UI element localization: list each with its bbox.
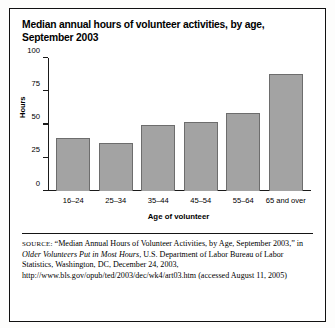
y-axis-line bbox=[48, 58, 49, 191]
bar-slot: 65 and over bbox=[265, 58, 308, 191]
x-axis-tick-label: 16–24 bbox=[63, 196, 84, 205]
y-axis-tick bbox=[43, 123, 48, 124]
y-axis-tick-label: 25 bbox=[31, 145, 40, 154]
figure-page: Median annual hours of volunteer activit… bbox=[0, 0, 335, 328]
x-axis-tick-label: 45–54 bbox=[190, 196, 211, 205]
x-axis-title: Age of volunteer bbox=[48, 212, 309, 221]
y-axis-tick bbox=[43, 90, 48, 91]
figure-frame: Median annual hours of volunteer activit… bbox=[9, 8, 326, 322]
bar bbox=[99, 143, 133, 191]
source-text-part-1: “Median Annual Hours of Volunteer Activi… bbox=[53, 239, 304, 248]
bar-slot: 55–64 bbox=[222, 58, 265, 191]
y-axis-tick-label: 100 bbox=[27, 45, 40, 54]
x-axis-tick-label: 65 and over bbox=[266, 196, 306, 205]
bar-slot: 45–54 bbox=[180, 58, 223, 191]
source-note: SOURCE: “Median Annual Hours of Voluntee… bbox=[10, 234, 325, 287]
figure-title-line-1: Median annual hours of volunteer activit… bbox=[22, 19, 265, 30]
plot-area: 16–2425–3435–4445–5455–6465 and over 025… bbox=[48, 58, 309, 191]
y-axis-tick bbox=[43, 190, 48, 191]
x-axis-tick-label: 55–64 bbox=[233, 196, 254, 205]
bar-slot: 25–34 bbox=[95, 58, 138, 191]
bar bbox=[226, 113, 260, 191]
page-title: Median annual hours of volunteer activit… bbox=[10, 9, 325, 46]
x-axis-tick-label: 35–44 bbox=[148, 196, 169, 205]
bar-slot: 16–24 bbox=[52, 58, 95, 191]
x-axis-tick-label: 25–34 bbox=[105, 196, 126, 205]
bar-slot: 35–44 bbox=[137, 58, 180, 191]
y-axis-tick-label: 75 bbox=[31, 78, 40, 87]
bar bbox=[184, 122, 218, 191]
bar bbox=[56, 138, 90, 191]
bar bbox=[269, 74, 303, 191]
y-axis-tick bbox=[43, 157, 48, 158]
source-label: SOURCE: bbox=[22, 240, 53, 247]
y-axis-tick-label: 50 bbox=[31, 112, 40, 121]
y-axis-tick-label: 0 bbox=[36, 178, 40, 187]
bar-chart: Hours 16–2425–3435–4445–5455–6465 and ov… bbox=[16, 50, 315, 225]
y-axis-title: Hours bbox=[18, 97, 27, 118]
source-publication-title: Older Volunteers Put in Most Hours bbox=[22, 250, 139, 259]
figure-title-line-2: September 2003 bbox=[22, 31, 313, 44]
y-axis-tick bbox=[43, 57, 48, 58]
bar-series: 16–2425–3435–4445–5455–6465 and over bbox=[52, 58, 307, 191]
bar bbox=[141, 125, 175, 192]
